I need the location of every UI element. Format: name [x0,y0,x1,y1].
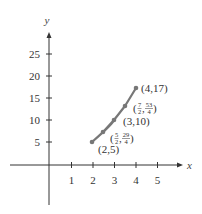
svg-text:,: , [119,132,122,144]
svg-text:,: , [142,102,145,114]
y-tick-labels: 5 10 15 20 25 [29,48,41,148]
y-tick-label: 25 [29,48,41,60]
svg-text:): ) [153,102,157,115]
svg-text:2: 2 [115,138,118,145]
x-tick-label: 5 [155,174,161,186]
y-tick-label: 15 [29,92,41,104]
x-axis-arrow-icon [177,163,183,168]
svg-text:4: 4 [147,108,151,115]
svg-text:5: 5 [115,131,118,138]
y-axis-arrow-icon [47,32,52,38]
svg-text:(: ( [133,102,137,115]
chart: x y 1 2 3 4 5 5 10 15 20 25 [0,0,202,214]
data-point [90,140,95,145]
svg-text:53: 53 [146,101,153,108]
svg-text:29: 29 [123,131,130,138]
x-tick-label: 3 [112,174,118,186]
data-point [123,104,128,109]
y-axis-label: y [44,14,50,26]
x-tick-label: 2 [90,174,96,186]
x-axis-label: x [186,159,192,171]
y-tick-label: 5 [35,136,41,148]
svg-text:): ) [130,132,134,145]
point-label-7-2-53-4: ( 7 2 , 53 4 ) [133,101,157,115]
x-tick-labels: 1 2 3 4 5 [69,174,161,186]
svg-text:2: 2 [138,108,141,115]
x-tick-label: 4 [133,174,139,186]
data-point [134,86,139,91]
y-tick-label: 10 [29,114,41,126]
svg-text:4: 4 [124,138,128,145]
point-label-5-2-29-4: ( 5 2 , 29 4 ) [110,131,134,145]
x-tick-label: 1 [69,174,75,186]
svg-text:(: ( [110,132,114,145]
point-label-3-10: (3,10) [123,115,150,128]
data-point [112,118,117,123]
data-point [101,130,106,135]
point-label-4-17: (4,17) [141,82,168,95]
y-tick-label: 20 [29,70,41,82]
